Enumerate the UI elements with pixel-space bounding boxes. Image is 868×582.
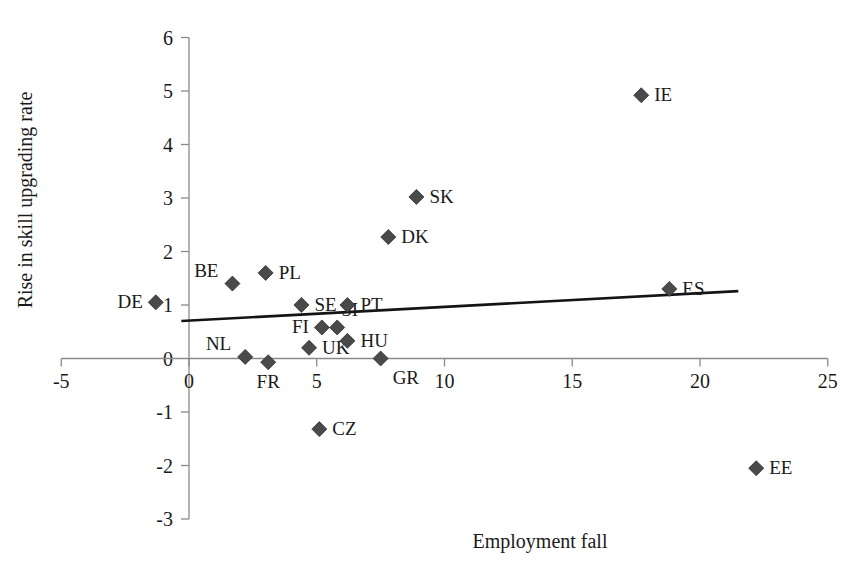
x-tick-label: 0 — [184, 370, 194, 392]
data-point: SE — [294, 294, 337, 315]
data-point: GR — [373, 351, 419, 388]
y-tick-label: -1 — [156, 401, 173, 423]
data-point-label: FR — [257, 371, 281, 392]
data-point-marker — [409, 189, 424, 204]
y-axis-group: -3-2-10123456 — [156, 27, 189, 531]
x-axis-title: Employment fall — [473, 530, 608, 553]
y-axis-title: Rise in skill upgrading rate — [14, 92, 37, 309]
data-point-label: NL — [206, 333, 231, 354]
data-point-marker — [238, 349, 253, 364]
scatter-plot-svg: -3-2-10123456 -50510152025 DEBENLPLFRSEU… — [0, 0, 868, 582]
y-tick-label: -3 — [156, 508, 173, 530]
data-point-marker — [373, 351, 388, 366]
x-tick-label: 20 — [690, 370, 710, 392]
data-point: DK — [381, 226, 429, 247]
data-point: CZ — [312, 418, 357, 439]
data-point: ES — [662, 278, 705, 299]
scatter-chart-figure: -3-2-10123456 -50510152025 DEBENLPLFRSEU… — [0, 0, 868, 582]
data-point-label: IE — [654, 84, 672, 105]
data-point-label: SK — [429, 186, 454, 207]
data-points-group: DEBENLPLFRSEUKFICZSIPTHUGRDKSKIEESEE — [117, 84, 792, 478]
data-point: FR — [257, 355, 281, 393]
y-tick-label: 5 — [163, 80, 173, 102]
data-point-marker — [294, 298, 309, 313]
data-point-marker — [330, 320, 345, 335]
data-point-label: DK — [401, 226, 429, 247]
data-point-label: PT — [360, 294, 383, 315]
data-point: IE — [634, 84, 672, 105]
data-point-marker — [302, 340, 317, 355]
data-point-marker — [225, 276, 240, 291]
data-point: HU — [340, 330, 388, 351]
data-point: BE — [194, 260, 240, 292]
data-point: FI — [292, 316, 329, 337]
y-tick-label: -2 — [156, 455, 173, 477]
data-point-marker — [381, 230, 396, 245]
data-point: PT — [340, 294, 383, 315]
data-point-label: DE — [117, 291, 142, 312]
data-point-label: PL — [279, 262, 301, 283]
data-point-label: CZ — [332, 418, 356, 439]
data-point-marker — [261, 355, 276, 370]
data-point-label: GR — [393, 367, 420, 388]
data-point-label: SE — [314, 294, 336, 315]
data-point: PL — [258, 262, 301, 283]
data-point: SK — [409, 186, 454, 207]
x-tick-label: 15 — [562, 370, 582, 392]
data-point-label: BE — [194, 260, 218, 281]
trendline — [181, 291, 738, 321]
data-point: DE — [117, 291, 163, 312]
data-point-marker — [634, 88, 649, 103]
data-point-label: HU — [360, 330, 388, 351]
y-tick-label: 2 — [163, 241, 173, 263]
data-point-marker — [312, 422, 327, 437]
data-point: EE — [749, 457, 793, 478]
data-point-label: FI — [292, 316, 309, 337]
data-point-label: ES — [682, 278, 704, 299]
data-point-marker — [314, 320, 329, 335]
data-point-marker — [148, 295, 163, 310]
y-tick-label: 6 — [163, 27, 173, 49]
x-tick-label: 10 — [435, 370, 455, 392]
trendline-group — [181, 291, 738, 321]
data-point-label: EE — [769, 457, 792, 478]
y-tick-label: 4 — [163, 134, 173, 156]
data-point: NL — [206, 333, 253, 365]
y-tick-label: 3 — [163, 187, 173, 209]
y-tick-label: 1 — [163, 294, 173, 316]
x-tick-label: 25 — [818, 370, 838, 392]
x-tick-label: 5 — [312, 370, 322, 392]
x-tick-label: -5 — [53, 370, 70, 392]
data-point-marker — [258, 265, 273, 280]
y-axis-ticks: -3-2-10123456 — [156, 27, 189, 531]
data-point-marker — [749, 461, 764, 476]
